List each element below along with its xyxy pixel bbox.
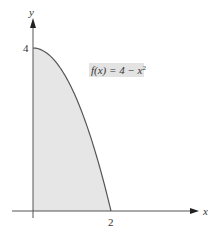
y-axis-label: y [28, 6, 34, 18]
function-label: f(x) = 4 − x2 [91, 64, 147, 77]
function-label-text: f(x) = 4 − x [91, 64, 143, 77]
function-label-exponent: 2 [143, 64, 147, 72]
x-axis-arrow-icon [190, 208, 199, 214]
y-tick-label-4: 4 [23, 42, 29, 54]
area-under-curve-chart: y x 4 2 f(x) = 4 − x2 [0, 0, 214, 236]
x-tick-label-2: 2 [108, 216, 114, 228]
x-axis-label: x [202, 205, 208, 217]
y-axis-arrow-icon [30, 18, 36, 28]
